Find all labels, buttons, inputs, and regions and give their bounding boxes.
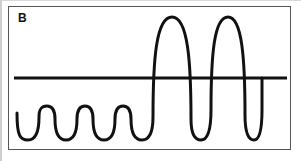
figure-panel: B xyxy=(0,0,301,161)
waveform-chart xyxy=(0,0,301,161)
